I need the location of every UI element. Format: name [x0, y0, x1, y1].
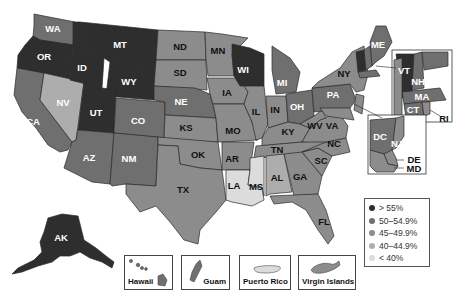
- label-MN: MN: [211, 45, 226, 56]
- label-ME: ME: [371, 39, 385, 50]
- label-MD: MD: [407, 163, 422, 174]
- label-IL: IL: [252, 106, 261, 117]
- legend-swatch-icon: [369, 218, 375, 224]
- legend-item: 50–54.9%: [369, 215, 425, 228]
- state-NJ[interactable]: [354, 94, 364, 114]
- label-NE: NE: [174, 96, 187, 107]
- label-LA: LA: [228, 180, 241, 191]
- legend-swatch-icon: [369, 243, 375, 249]
- label-MO: MO: [225, 125, 240, 136]
- label-OH: OH: [290, 101, 304, 112]
- label-NC: NC: [327, 138, 341, 149]
- label-NV: NV: [56, 97, 70, 108]
- label-CO: CO: [131, 115, 145, 126]
- legend-label: 50–54.9%: [379, 216, 417, 226]
- label-IN: IN: [270, 104, 280, 115]
- label-NM: NM: [122, 153, 137, 164]
- label-MS: MS: [249, 181, 263, 192]
- label-MI: MI: [277, 77, 288, 88]
- label-OK: OK: [191, 149, 205, 160]
- legend-label: > 55%: [379, 203, 403, 213]
- label-VT: VT: [398, 65, 410, 76]
- label-AR: AR: [225, 153, 239, 164]
- inset-label-virgin-islands: Virgin Islands: [302, 277, 354, 286]
- legend-label: 45–49.9%: [379, 228, 417, 238]
- label-NJ: NJ: [391, 138, 403, 149]
- label-AK: AK: [54, 232, 68, 243]
- label-PA: PA: [327, 89, 340, 100]
- label-ID: ID: [77, 62, 87, 73]
- legend-swatch-icon: [369, 205, 375, 211]
- label-WA: WA: [45, 23, 60, 34]
- label-FL: FL: [318, 216, 330, 227]
- label-WV: WV: [307, 120, 323, 131]
- label-KS: KS: [179, 122, 192, 133]
- inset-label-guam: Guam: [203, 277, 226, 286]
- label-KY: KY: [281, 126, 295, 137]
- label-NH: NH: [411, 76, 425, 87]
- inset-puerto-rico[interactable]: Puerto Rico: [239, 255, 291, 290]
- legend-item: < 40%: [369, 252, 425, 265]
- label-MT: MT: [113, 39, 127, 50]
- inset-hawaii[interactable]: Hawaii: [124, 255, 173, 290]
- inset-virgin-islands[interactable]: Virgin Islands: [298, 255, 356, 290]
- label-UT: UT: [90, 107, 103, 118]
- legend-item: 40–44.9%: [369, 240, 425, 253]
- label-OR: OR: [37, 51, 51, 62]
- legend-item: > 55%: [369, 202, 425, 215]
- legend: > 55% 50–54.9% 45–49.9% 40–44.9% < 40%: [364, 198, 430, 267]
- label-GA: GA: [293, 171, 307, 182]
- label-DC: DC: [373, 131, 387, 142]
- state-AK[interactable]: [12, 214, 114, 274]
- label-SC: SC: [314, 155, 327, 166]
- label-IA: IA: [222, 87, 232, 98]
- label-SD: SD: [173, 67, 186, 78]
- legend-swatch-icon: [369, 230, 375, 236]
- label-AL: AL: [271, 172, 284, 183]
- label-WI: WI: [237, 64, 249, 75]
- inset-label-hawaii: Hawaii: [128, 277, 153, 286]
- label-MA: MA: [415, 91, 430, 102]
- label-CA: CA: [26, 116, 40, 127]
- label-WY: WY: [121, 76, 137, 87]
- legend-label: 40–44.9%: [379, 241, 417, 251]
- label-NY: NY: [337, 68, 351, 79]
- label-TX: TX: [177, 184, 190, 195]
- label-CT: CT: [407, 104, 420, 115]
- label-RI: RI: [439, 113, 449, 124]
- label-AZ: AZ: [83, 152, 96, 163]
- inset-label-puerto-rico: Puerto Rico: [243, 277, 288, 286]
- label-ND: ND: [173, 41, 187, 52]
- inset-guam[interactable]: Guam: [181, 255, 230, 290]
- legend-item: 45–49.9%: [369, 227, 425, 240]
- label-TN: TN: [271, 144, 284, 155]
- label-VA: VA: [326, 120, 339, 131]
- legend-label: < 40%: [379, 253, 403, 263]
- legend-swatch-icon: [369, 255, 375, 261]
